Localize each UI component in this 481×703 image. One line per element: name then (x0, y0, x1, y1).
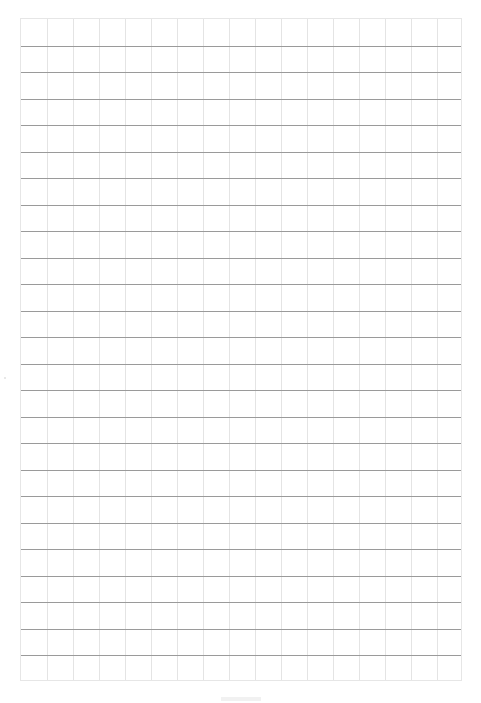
grid-horizontal-line (21, 311, 461, 312)
grid-horizontal-line (21, 470, 461, 471)
grid-vertical-line (73, 19, 74, 680)
ruled-grid (20, 18, 462, 681)
grid-horizontal-line (21, 576, 461, 577)
grid-horizontal-line (21, 125, 461, 126)
grid-vertical-line (333, 19, 334, 680)
graph-paper-page (0, 0, 481, 703)
grid-vertical-line (151, 19, 152, 680)
grid-vertical-line (281, 19, 282, 680)
grid-horizontal-line (21, 152, 461, 153)
grid-horizontal-line (21, 231, 461, 232)
grid-vertical-line (203, 19, 204, 680)
grid-horizontal-line (21, 523, 461, 524)
footer-mark (221, 697, 261, 701)
grid-horizontal-line (21, 629, 461, 630)
grid-horizontal-line (21, 443, 461, 444)
grid-vertical-line (359, 19, 360, 680)
grid-vertical-line (47, 19, 48, 680)
grid-horizontal-line (21, 258, 461, 259)
grid-horizontal-line (21, 390, 461, 391)
grid-vertical-line (177, 19, 178, 680)
grid-vertical-line (229, 19, 230, 680)
grid-vertical-line (255, 19, 256, 680)
grid-horizontal-line (21, 549, 461, 550)
grid-vertical-line (411, 19, 412, 680)
grid-vertical-line (99, 19, 100, 680)
grid-vertical-line (437, 19, 438, 680)
grid-vertical-line (385, 19, 386, 680)
grid-horizontal-line (21, 602, 461, 603)
grid-horizontal-line (21, 284, 461, 285)
grid-horizontal-line (21, 99, 461, 100)
grid-horizontal-line (21, 72, 461, 73)
grid-horizontal-line (21, 655, 461, 656)
grid-horizontal-line (21, 496, 461, 497)
grid-horizontal-line (21, 46, 461, 47)
grid-vertical-line (307, 19, 308, 680)
grid-horizontal-line (21, 337, 461, 338)
grid-horizontal-line (21, 178, 461, 179)
grid-horizontal-line (21, 364, 461, 365)
paper-speck (4, 377, 6, 379)
grid-horizontal-line (21, 417, 461, 418)
grid-vertical-line (125, 19, 126, 680)
grid-horizontal-line (21, 205, 461, 206)
